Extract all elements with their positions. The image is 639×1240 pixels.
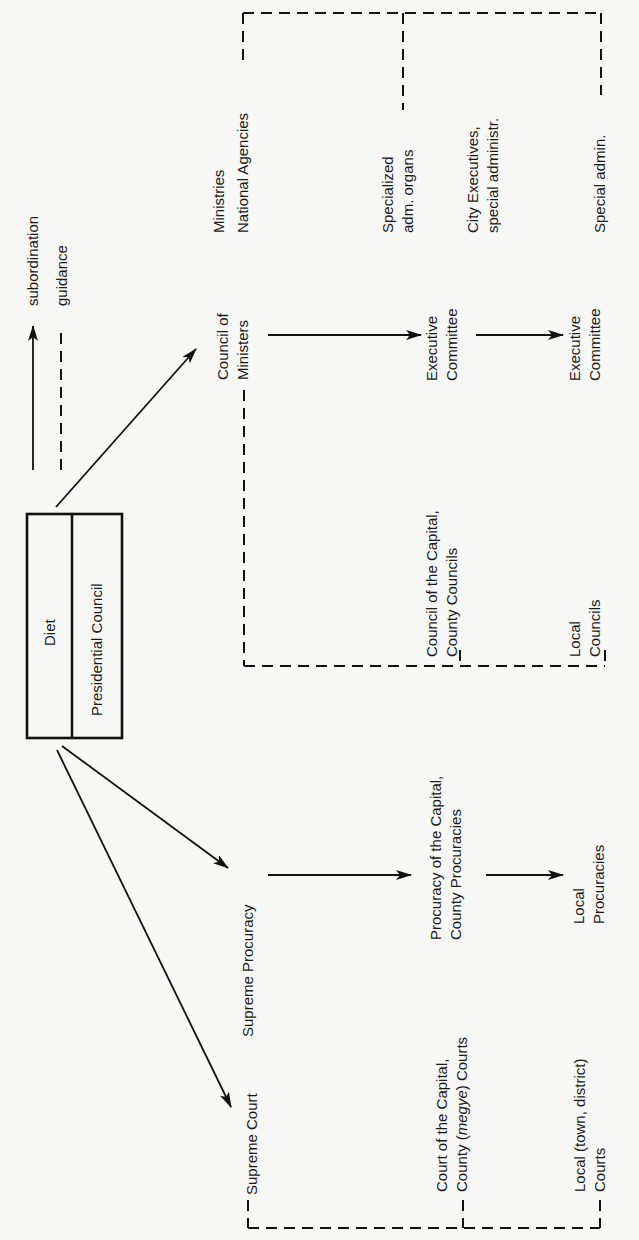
county-courts-label: Court of the Capital, County (megye) Cou… — [433, 1037, 470, 1192]
legend-guidance-label: guidance — [53, 245, 70, 306]
executive-committee-county-label: Executive Committee — [423, 308, 460, 381]
local-councils-label: Local Councils — [566, 599, 603, 657]
legend: subordination guidance — [24, 216, 70, 470]
procuracy-branch: Supreme Procuracy Procuracy of the Capit… — [239, 772, 607, 1037]
diet-label: Diet — [41, 618, 58, 646]
administration-branch: Council of Ministers Ministries National… — [210, 13, 608, 666]
ministries-national-agencies-label: Ministries National Agencies — [210, 113, 251, 233]
executive-committee-local-label: Executive Committee — [566, 308, 603, 381]
supreme-procuracy-label: Supreme Procuracy — [239, 904, 256, 1037]
courts-branch: Supreme Court Court of the Capital, Coun… — [243, 1037, 608, 1228]
city-executives-label: City Executives, special administr. — [464, 118, 501, 233]
arrow-diet-to-council-of-ministers — [56, 349, 196, 507]
county-procuracies-label: Procuracy of the Capital, County Procura… — [427, 772, 464, 940]
council-of-the-capital-county-councils-label: Council of the Capital, County Councils — [423, 506, 460, 657]
hungarian-state-organization-diagram: subordination guidance Diet Presidential… — [0, 0, 639, 1240]
arrow-diet-to-supreme-court — [57, 750, 231, 1107]
arrow-diet-to-supreme-procuracy — [62, 746, 228, 868]
special-admin-label: Special admin. — [591, 135, 608, 233]
supreme-court-label: Supreme Court — [243, 1092, 260, 1195]
legend-subordination-label: subordination — [24, 216, 41, 306]
presidential-council-label: Presidential Council — [88, 583, 105, 716]
local-courts-label: Local (town, district) Courts — [571, 1054, 608, 1192]
local-procuracies-label: Local Procuracies — [570, 845, 607, 924]
courts-guidance-frame — [248, 1200, 600, 1228]
specialized-adm-organs-label: Specialized adm. organs — [379, 150, 416, 233]
council-of-ministers-label: Council of Ministers — [214, 309, 251, 380]
diet-presidential-council-box: Diet Presidential Council — [27, 514, 122, 738]
